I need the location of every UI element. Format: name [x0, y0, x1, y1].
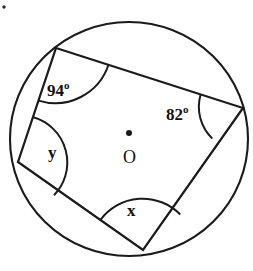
geometry-canvas: [0, 0, 253, 271]
degree-icon: o: [64, 79, 70, 91]
degree-icon: o: [183, 103, 189, 115]
circle-outline: [10, 22, 248, 256]
circle-center-dot: [126, 130, 132, 136]
angle-label-top-left-value: 94: [47, 81, 64, 100]
geometry-figure: 94o 82o y x O: [0, 0, 253, 271]
angle-label-top-right: 82o: [166, 104, 189, 123]
angle-arc-bottom: [100, 199, 180, 220]
angle-arc-top-right: [199, 94, 212, 138]
angle-label-top-right-value: 82: [166, 105, 183, 124]
circle-center-label: O: [123, 148, 136, 166]
angle-label-top-left: 94o: [47, 80, 70, 99]
corner-speck-artifact: [2, 5, 5, 8]
angle-label-bottom-unknown-x: x: [127, 202, 136, 219]
angle-label-left-unknown-y: y: [48, 144, 57, 161]
